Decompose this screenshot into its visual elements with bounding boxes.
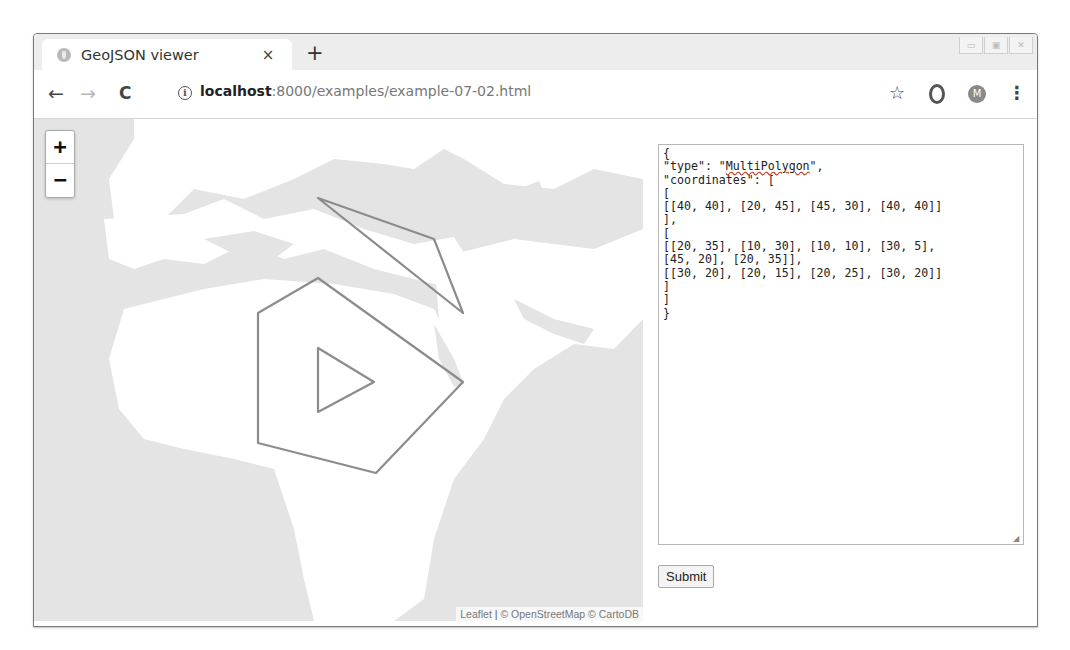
zoom-in-button[interactable]: + [46,131,74,164]
close-window-icon[interactable]: ✕ [1009,37,1033,54]
minimize-icon[interactable]: ▭ [959,37,983,54]
tab-strip: GeoJSON viewer × + ▭ ▣ ✕ [34,34,1037,70]
submit-button[interactable]: Submit [658,565,714,588]
url-host: localhost [200,83,272,99]
leaflet-link[interactable]: Leaflet [460,608,492,620]
back-button[interactable]: ← [48,81,64,105]
browser-menu-icon[interactable]: ⋮ [997,80,1037,106]
browser-toolbar: ← → C i localhost:8000/examples/example-… [34,70,1037,119]
editor-line: [ [663,226,670,240]
cartodb-link[interactable]: © CartoDB [585,608,639,620]
map-attribution: Leaflet | © OpenStreetMap © CartoDB [456,607,643,621]
map-tiles [34,119,643,621]
editor-line: [[20, 35], [10, 30], [10, 10], [30, 5], [663,239,935,253]
geojson-panel: { "type": "MultiPolygon", "coordinates":… [643,119,1037,626]
browser-window: GeoJSON viewer × + ▭ ▣ ✕ ← → C i localho… [33,33,1038,627]
tab-geojson-viewer[interactable]: GeoJSON viewer × [42,39,292,70]
tab-close-icon[interactable]: × [258,46,278,64]
new-tab-button[interactable]: + [306,41,324,65]
editor-line: [[30, 20], [20, 15], [20, 25], [30, 20]] [663,266,942,280]
editor-line: ] [663,292,670,306]
site-info-icon[interactable]: i [178,86,192,100]
page-favicon-icon [57,48,71,62]
editor-line: [45, 20], [20, 35]], [663,252,803,266]
editor-line: { [663,146,670,160]
openstreetmap-link[interactable]: © OpenStreetMap [500,608,585,620]
editor-line: ] [663,279,670,293]
editor-line: } [663,306,670,320]
profile-avatar[interactable]: M [957,80,997,106]
window-controls: ▭ ▣ ✕ [958,37,1033,54]
toolbar-actions: ☆ M ⋮ [877,80,1037,106]
zoom-control: + − [45,130,75,198]
geojson-textarea[interactable]: { "type": "MultiPolygon", "coordinates":… [658,144,1024,545]
bookmark-star-icon[interactable]: ☆ [877,80,917,106]
editor-line: ], [663,212,677,226]
url-path: :8000/examples/example-07-02.html [272,83,532,99]
editor-line: [ [663,186,670,200]
extension-icon[interactable] [917,80,957,106]
maximize-icon[interactable]: ▣ [984,37,1008,54]
forward-button[interactable]: → [80,81,96,105]
zoom-out-button[interactable]: − [46,164,74,196]
editor-line-type: "type": "MultiPolygon", [663,159,824,173]
reload-button[interactable]: C [119,81,131,105]
leaflet-map[interactable]: + − Leaflet | © OpenStreetMap © CartoDB [34,119,643,621]
tab-title: GeoJSON viewer [81,47,258,63]
editor-line: [[40, 40], [20, 45], [45, 30], [40, 40]] [663,199,942,213]
resize-grip-icon[interactable]: ◢ [1013,534,1019,543]
spellcheck-squiggle: MultiPolygon [726,159,810,173]
page-content: + − Leaflet | © OpenStreetMap © CartoDB … [34,119,1037,626]
address-bar[interactable]: localhost:8000/examples/example-07-02.ht… [200,83,531,99]
editor-line: "coordinates": [ [663,173,775,187]
